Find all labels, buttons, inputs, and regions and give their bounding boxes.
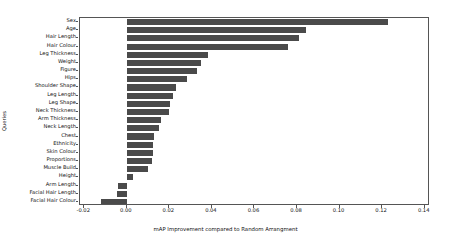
x-tick-label: 0.06: [248, 208, 260, 213]
bar: [127, 35, 299, 41]
bar-row: [80, 150, 428, 156]
y-tick-label: Neck Thickness: [36, 108, 76, 113]
y-tick-mark: [76, 21, 78, 22]
x-tick-label: 0.08: [290, 208, 302, 213]
y-tick-label: Figure: [60, 68, 76, 73]
x-tick-label: 0.04: [205, 208, 217, 213]
y-tick-label: Arm Thickness: [38, 117, 76, 122]
y-axis-label: Queries: [1, 111, 7, 131]
bar: [127, 125, 159, 131]
bar: [127, 60, 201, 66]
y-tick-mark: [76, 160, 78, 161]
bar: [117, 191, 127, 197]
y-tick-label: Age: [66, 27, 76, 32]
bar: [127, 52, 208, 58]
bar: [127, 93, 173, 99]
y-tick-label: Neck Length: [44, 125, 76, 130]
y-tick-mark: [76, 37, 78, 38]
y-tick-mark: [76, 193, 78, 194]
bar: [127, 19, 389, 25]
bar-row: [80, 101, 428, 107]
x-tick-label: 0.12: [375, 208, 387, 213]
bar: [127, 174, 133, 180]
bar-row: [80, 183, 428, 189]
bar-row: [80, 125, 428, 131]
y-tick-mark: [76, 136, 78, 137]
y-tick-mark: [76, 29, 78, 30]
plot-area: [80, 18, 428, 204]
bar-row: [80, 199, 428, 204]
bar-row: [80, 76, 428, 82]
bar-row: [80, 93, 428, 99]
bar-row: [80, 174, 428, 180]
y-tick-label: Leg Shape: [49, 100, 76, 105]
bar-row: [80, 52, 428, 58]
bar-row: [80, 117, 428, 123]
bar: [127, 158, 153, 164]
y-tick-label: Arm Length: [46, 182, 76, 187]
plot-frame: [79, 17, 429, 205]
bar: [127, 68, 197, 74]
bar: [127, 109, 170, 115]
x-tick-label: 0.00: [120, 208, 132, 213]
bar-row: [80, 133, 428, 139]
bar: [127, 142, 154, 148]
y-tick-label: Hair Colour: [47, 43, 76, 48]
y-tick-label: Weight: [58, 59, 76, 64]
y-tick-mark: [76, 111, 78, 112]
y-tick-mark: [76, 119, 78, 120]
bar-row: [80, 166, 428, 172]
bar: [127, 117, 161, 123]
y-tick-mark: [76, 70, 78, 71]
bar: [127, 133, 155, 139]
bar-row: [80, 84, 428, 90]
y-tick-label: Sex: [67, 18, 76, 23]
y-tick-label: Hair Length: [46, 35, 76, 40]
y-tick-label: Facial Hair Colour: [31, 198, 76, 203]
y-tick-label: Chest: [61, 133, 76, 138]
bar-chart-figure: SexAgeHair LengthHair ColourLeg Thicknes…: [0, 0, 451, 243]
bar: [127, 27, 306, 33]
y-tick-mark: [76, 127, 78, 128]
bar: [127, 84, 176, 90]
bar: [127, 150, 154, 156]
y-tick-mark: [76, 185, 78, 186]
bar-row: [80, 35, 428, 41]
bar-row: [80, 109, 428, 115]
x-tick-label: 0.10: [333, 208, 345, 213]
y-tick-label: Leg Thickness: [39, 51, 76, 56]
bar-row: [80, 142, 428, 148]
y-tick-label: Facial Hair Length: [30, 190, 76, 195]
y-tick-mark: [76, 46, 78, 47]
bar: [127, 44, 289, 50]
y-tick-mark: [76, 201, 78, 202]
bar: [118, 183, 127, 189]
bar-row: [80, 44, 428, 50]
bar-row: [80, 19, 428, 25]
y-tick-mark: [76, 95, 78, 96]
x-tick-label: -0.02: [77, 208, 90, 213]
bar-row: [80, 191, 428, 197]
y-tick-label: Leg Length: [47, 92, 76, 97]
bar: [127, 166, 148, 172]
y-tick-mark: [76, 78, 78, 79]
y-axis-tick-labels: SexAgeHair LengthHair ColourLeg Thicknes…: [0, 17, 76, 205]
y-tick-label: Shoulder Shape: [35, 84, 76, 89]
x-axis-label: mAP Improvement compared to Random Arran…: [0, 226, 451, 232]
x-tick-label: 0.02: [163, 208, 175, 213]
y-tick-mark: [76, 176, 78, 177]
y-tick-label: Height: [59, 174, 76, 179]
x-tick-label: 0.14: [418, 208, 430, 213]
y-tick-label: Muscle Build: [43, 166, 76, 171]
x-axis-ticks: -0.020.000.020.040.060.080.100.120.14: [79, 205, 429, 221]
bar-row: [80, 68, 428, 74]
y-tick-mark: [76, 168, 78, 169]
y-tick-label: Skin Colour: [46, 149, 76, 154]
y-tick-mark: [76, 144, 78, 145]
y-tick-label: Proportions: [47, 157, 76, 162]
y-tick-label: Ethnicity: [53, 141, 76, 146]
y-tick-mark: [76, 103, 78, 104]
y-tick-label: Hips: [65, 76, 76, 81]
bar: [127, 76, 188, 82]
bar: [101, 199, 127, 204]
